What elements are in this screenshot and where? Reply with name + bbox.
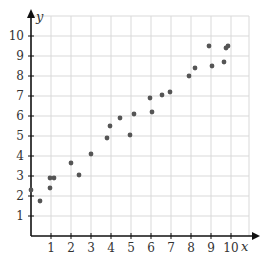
x-tick-label: 1 [47,241,55,255]
data-point [160,93,165,98]
y-axis-arrow-icon [27,9,35,18]
x-tick-label: 4 [107,241,115,255]
data-point [105,136,110,141]
data-point [168,90,173,95]
y-tick-label: 6 [16,109,24,123]
y-axis-label: y [35,9,44,24]
data-point [77,173,82,178]
x-tick-label: 8 [187,241,195,255]
x-axis-arrow-icon [252,232,260,240]
y-tick-label: 10 [9,29,24,43]
y-tick-label: 8 [16,69,24,83]
data-point [89,152,94,157]
x-tick-labels: 12345678910 [47,241,238,255]
data-point [226,44,231,49]
x-tick-label: 9 [207,241,215,255]
data-point [69,161,74,166]
x-tick-label: 2 [67,241,75,255]
data-point [187,74,192,79]
data-point [207,44,212,49]
data-point [38,199,43,204]
data-point [150,110,155,115]
y-tick-label: 5 [16,129,24,143]
data-point [222,60,227,65]
data-point [118,116,123,121]
data-point [29,188,34,193]
y-tick-label: 4 [16,149,24,163]
x-tick-label: 5 [127,241,135,255]
data-point [128,133,133,138]
data-points [29,44,231,204]
data-point [210,64,215,69]
y-tick-labels: 12345678910 [9,29,25,223]
grid-lines [31,16,249,236]
axes [27,9,260,240]
data-point [52,176,57,181]
y-tick-label: 7 [16,89,24,103]
x-axis-label: x [241,239,249,254]
y-tick-label: 1 [16,209,24,223]
y-tick-label: 3 [16,169,24,183]
x-tick-label: 3 [87,241,95,255]
y-tick-label: 2 [16,189,24,203]
tick-marks [28,36,231,239]
x-tick-label: 7 [167,241,175,255]
x-tick-label: 10 [223,241,238,255]
data-point [48,186,53,191]
y-tick-label: 9 [16,49,24,63]
data-point [148,96,153,101]
data-point [193,66,198,71]
scatter-chart: 12345678910 12345678910 x y [0,0,265,267]
data-point [132,112,137,117]
x-tick-label: 6 [147,241,155,255]
data-point [108,124,113,129]
